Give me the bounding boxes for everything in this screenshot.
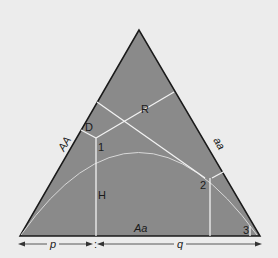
ternary-diagram: AA aa Aa R D H 1 2 3 p : q — [0, 0, 278, 258]
label-point-2: 2 — [200, 179, 206, 191]
q-arrow-right-head — [255, 242, 262, 247]
label-h: H — [98, 189, 106, 201]
label-separator: : — [94, 238, 97, 250]
label-aa-bottom: Aa — [133, 222, 147, 234]
label-point-3: 3 — [243, 224, 249, 236]
label-p: p — [49, 238, 56, 250]
label-d: D — [85, 121, 93, 133]
p-arrow-right-head — [86, 242, 93, 247]
label-aa-right: aa — [211, 135, 228, 152]
label-r: R — [141, 103, 149, 115]
label-q: q — [177, 238, 184, 250]
label-point-1: 1 — [98, 141, 104, 153]
p-arrow-left-head — [18, 242, 25, 247]
q-arrow-left-head — [97, 242, 104, 247]
